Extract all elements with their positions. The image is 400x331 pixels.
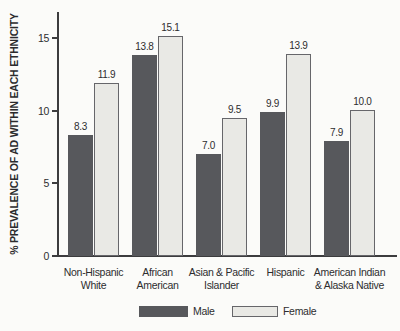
y-axis-line: [57, 12, 59, 257]
legend-swatch-female: [232, 306, 278, 317]
x-category-label-5: American Indian & Alaska Native: [304, 266, 396, 291]
value-label-female-1: 11.9: [84, 69, 129, 80]
value-label-female-4: 13.9: [276, 40, 321, 51]
value-label-male-1: 8.3: [58, 121, 103, 132]
value-label-male-2: 13.8: [122, 41, 167, 52]
value-label-male-3: 7.0: [186, 140, 231, 151]
y-tick-0: [52, 255, 57, 257]
y-tick-15: [52, 37, 57, 39]
legend-swatch-male: [139, 306, 188, 317]
bar-female-group-4: [286, 54, 311, 256]
value-label-female-5: 10.0: [340, 96, 385, 107]
prevalence-bar-chart: % PREVALENCE OF AD WITHIN EACH ETHNICITY…: [0, 0, 400, 331]
y-tick-label-5: 5: [29, 177, 49, 189]
bar-male-group-4: [260, 112, 285, 256]
legend-label-male: Male: [193, 305, 215, 317]
bar-male-group-3: [196, 154, 221, 256]
value-label-male-4: 9.9: [250, 98, 295, 109]
y-tick-5: [52, 182, 57, 184]
y-tick-label-10: 10: [29, 105, 49, 117]
y-tick-label-15: 15: [29, 32, 49, 44]
value-label-female-2: 15.1: [148, 22, 193, 33]
bar-female-group-2: [158, 36, 183, 256]
value-label-male-5: 7.9: [314, 127, 359, 138]
bar-female-group-3: [222, 118, 247, 256]
bar-female-group-1: [94, 83, 119, 256]
y-axis-title: % PREVALENCE OF AD WITHIN EACH ETHNICITY: [8, 13, 20, 255]
bar-male-group-2: [132, 55, 157, 256]
bar-male-group-5: [324, 141, 349, 256]
bar-male-group-1: [68, 135, 93, 256]
legend-label-female: Female: [283, 305, 316, 317]
y-tick-10: [52, 110, 57, 112]
y-tick-label-0: 0: [29, 250, 49, 262]
